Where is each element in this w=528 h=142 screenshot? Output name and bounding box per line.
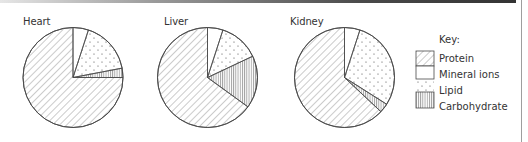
- key-label-protein: Protein: [439, 53, 474, 65]
- key-label-carbohydrate: Carbohydrate: [439, 101, 508, 113]
- key-swatches: [416, 51, 434, 108]
- key-swatch-carbohydrate: [416, 92, 434, 108]
- pie-liver: [157, 28, 257, 128]
- figure: Heart Liver Kidney Key: Protein Mineral …: [0, 0, 528, 142]
- key-swatch-protein: [416, 51, 434, 66]
- pie-heart: [23, 28, 123, 128]
- pie-kidney: [295, 28, 395, 128]
- key-label-lipid: Lipid: [439, 85, 463, 97]
- pie-label-heart: Heart: [23, 16, 50, 28]
- key-title: Key:: [439, 34, 460, 46]
- key-swatch-lipid: [416, 79, 434, 92]
- pie-label-liver: Liver: [164, 16, 188, 28]
- pie-label-kidney: Kidney: [290, 16, 324, 28]
- key-swatch-mineral-ions: [416, 66, 434, 79]
- key-label-mineral-ions: Mineral ions: [439, 69, 500, 81]
